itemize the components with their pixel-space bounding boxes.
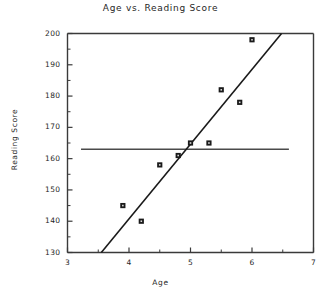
y-axis-tick-label: 190	[31, 60, 61, 69]
data-point[interactable]	[176, 153, 181, 158]
data-point[interactable]	[139, 219, 144, 224]
data-point-marker-center	[177, 155, 179, 157]
y-axis-tick-label: 180	[31, 91, 61, 100]
x-axis-tick-label: 7	[304, 258, 321, 267]
data-point[interactable]	[120, 203, 125, 208]
y-axis-tick-label: 200	[31, 29, 61, 38]
y-axis-tick-label: 130	[31, 248, 61, 257]
data-point[interactable]	[237, 100, 242, 105]
y-axis-tick-label: 140	[31, 216, 61, 225]
data-point-marker-center	[159, 164, 161, 166]
data-point-marker-center	[190, 142, 192, 144]
data-point[interactable]	[206, 140, 211, 145]
x-axis-tick-label: 4	[119, 258, 139, 267]
data-point[interactable]	[188, 140, 193, 145]
data-point-marker-center	[122, 205, 124, 207]
data-point[interactable]	[219, 87, 224, 92]
x-axis-tick-label: 3	[58, 258, 78, 267]
x-axis-tick-label: 5	[181, 258, 201, 267]
data-point-marker-center	[251, 39, 253, 41]
y-axis-tick-label: 170	[31, 122, 61, 131]
data-point-marker-center	[141, 220, 143, 222]
data-point-marker-center	[220, 89, 222, 91]
data-point[interactable]	[249, 37, 254, 42]
y-axis-tick-label: 160	[31, 154, 61, 163]
data-point[interactable]	[157, 162, 162, 167]
data-point-marker-center	[208, 142, 210, 144]
y-axis-tick-label: 150	[31, 185, 61, 194]
chart-container: Age vs. Reading Score Reading Score Age …	[0, 0, 321, 296]
x-axis-tick-label: 6	[242, 258, 262, 267]
data-point-marker-center	[239, 102, 241, 104]
